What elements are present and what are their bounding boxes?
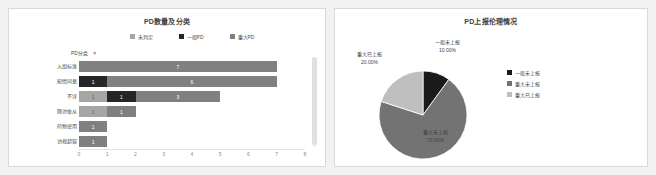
x-axis-tick: 2	[134, 151, 137, 157]
legend-item-undetermined[interactable]: 未判定	[130, 33, 153, 40]
legend-swatch-undetermined	[130, 34, 135, 39]
pie-legend-item-major-unreported[interactable]: 重大未上报	[507, 80, 540, 87]
bar-segment[interactable]: 1	[79, 121, 107, 132]
bar-segment[interactable]: 7	[79, 61, 277, 72]
pie-label-major-unreported: 重大未上报 70.00%	[423, 129, 448, 144]
bar-stack: 113	[79, 91, 220, 102]
pie-svg	[371, 61, 475, 165]
y-axis-caption: PD分类 ▼	[71, 49, 97, 56]
bar-row[interactable]: 入组标准7	[79, 59, 305, 74]
pie-legend-label-general-unreported: 一般未上报	[515, 69, 540, 76]
bar-row[interactable]: 不详113	[79, 89, 305, 104]
pie-label-general-unreported-pct: 10.00%	[435, 47, 460, 55]
legend-swatch-major-pd	[230, 34, 235, 39]
pd-ethics-chart-card: PD上报伦理情况 一般未上报 10.00% 重大未上报 70.00% 重大已上报…	[334, 8, 648, 167]
bar-stack: 1	[79, 136, 107, 147]
bar-category-label: 不详	[35, 89, 77, 104]
pd-count-chart-card: PD数量及分类 未判定 一般PD 重大PD PD分类 ▼ 入组标准7知情同意16…	[8, 8, 326, 167]
bar-segment[interactable]: 1	[79, 91, 107, 102]
bar-stack: 16	[79, 76, 277, 87]
pie-chart-graphic	[371, 61, 475, 165]
scrollbar-thumb[interactable]	[312, 57, 317, 145]
bar-stack: 7	[79, 61, 277, 72]
bar-segment[interactable]: 1	[107, 91, 135, 102]
bar-chart-scrollbar[interactable]	[312, 57, 317, 147]
pie-legend-swatch-major-unreported	[507, 81, 512, 86]
x-axis-tick: 6	[247, 151, 250, 157]
bar-chart-title: PD数量及分类	[9, 16, 325, 26]
pie-label-major-unreported-pct: 70.00%	[423, 137, 448, 145]
x-axis-rule	[79, 149, 305, 150]
legend-swatch-general-pd	[179, 34, 184, 39]
dashboard-page: PD数量及分类 未判定 一般PD 重大PD PD分类 ▼ 入组标准7知情同意16…	[0, 0, 656, 175]
bar-stack: 1	[79, 121, 107, 132]
bar-category-label: 随访依从	[35, 104, 77, 119]
x-axis-tick: 3	[162, 151, 165, 157]
legend-label-general-pd: 一般PD	[187, 33, 204, 40]
x-axis-tick: 1	[106, 151, 109, 157]
bar-segment[interactable]: 6	[107, 76, 277, 87]
bar-segment[interactable]: 1	[107, 106, 135, 117]
y-axis-caption-label: PD分类	[71, 50, 88, 56]
bar-segment[interactable]: 1	[79, 106, 107, 117]
pie-legend-label-major-unreported: 重大未上报	[515, 80, 540, 87]
bar-category-label: 知情同意	[35, 74, 77, 89]
bar-segment[interactable]: 3	[136, 91, 221, 102]
legend-label-major-pd: 重大PD	[238, 33, 255, 40]
pie-legend-swatch-major-reported	[507, 92, 512, 97]
bar-segment[interactable]: 1	[79, 136, 107, 147]
pie-label-major-reported: 重大已上报 20.00%	[357, 51, 382, 66]
pie-legend-item-major-reported[interactable]: 重大已上报	[507, 91, 540, 98]
legend-label-undetermined: 未判定	[138, 33, 153, 40]
bar-row[interactable]: 药物使用1	[79, 119, 305, 134]
pie-label-general-unreported-name: 一般未上报	[435, 39, 460, 47]
pie-label-major-unreported-name: 重大未上报	[423, 129, 448, 137]
bar-row[interactable]: 随访依从11	[79, 104, 305, 119]
x-axis-tick: 7	[275, 151, 278, 157]
bar-chart-legend: 未判定 一般PD 重大PD	[69, 33, 315, 40]
legend-item-major-pd[interactable]: 重大PD	[230, 33, 255, 40]
pie-chart-legend: 一般未上报 重大未上报 重大已上报	[507, 69, 540, 98]
funnel-icon[interactable]: ▼	[92, 50, 97, 56]
pie-legend-label-major-reported: 重大已上报	[515, 91, 540, 98]
bar-row[interactable]: 访视超窗1	[79, 134, 305, 149]
bar-category-label: 药物使用	[35, 119, 77, 134]
pie-legend-item-general-unreported[interactable]: 一般未上报	[507, 69, 540, 76]
x-axis-tick: 5	[219, 151, 222, 157]
bar-category-label: 入组标准	[35, 59, 77, 74]
bar-category-label: 访视超窗	[35, 134, 77, 149]
x-axis-tick: 8	[304, 151, 307, 157]
pie-legend-swatch-general-unreported	[507, 70, 512, 75]
pie-label-major-reported-name: 重大已上报	[357, 51, 382, 59]
pie-label-general-unreported: 一般未上报 10.00%	[435, 39, 460, 54]
bar-stack: 11	[79, 106, 136, 117]
bar-chart-plot-area: 入组标准7知情同意16不详113随访依从11药物使用1访视超窗1	[79, 59, 305, 149]
x-axis-tick: 4	[191, 151, 194, 157]
bar-row[interactable]: 知情同意16	[79, 74, 305, 89]
x-axis-ticks: 012345678	[79, 151, 305, 160]
x-axis-tick: 0	[78, 151, 81, 157]
pie-chart-title: PD上报伦理情况	[335, 16, 647, 26]
pie-label-major-reported-pct: 20.00%	[357, 59, 382, 67]
bar-segment[interactable]: 1	[79, 76, 107, 87]
legend-item-general-pd[interactable]: 一般PD	[179, 33, 204, 40]
